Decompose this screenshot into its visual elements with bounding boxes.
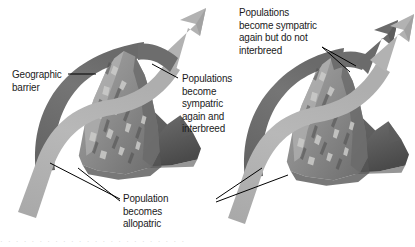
label-populations-become-sympatric-again-but-do-not-interbreed: Populations become sympatric again but d… [239,6,344,56]
label-geographic-barrier: Geographic barrier [12,68,98,93]
label-population-becomes-allopatric: Population becomes allopatric [123,192,208,230]
page-bleed-artifact: · · · · · · · · · · · · · · · · · · · · … [0,237,415,247]
label-populations-become-sympatric-again-and-interbreed: Populations become sympatric again and i… [182,72,261,135]
